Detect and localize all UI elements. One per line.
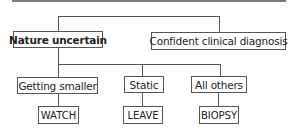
connector-to-confident-diagnosis bbox=[219, 16, 220, 32]
node-biopsy: BIOPSY bbox=[199, 106, 239, 124]
node-static: Static bbox=[124, 76, 164, 93]
connector-to-getting-smaller bbox=[58, 64, 59, 77]
connector-to-nature-uncertain bbox=[58, 16, 59, 31]
connector-to-leave bbox=[142, 93, 143, 106]
node-watch: WATCH bbox=[38, 106, 79, 124]
connector-to-biopsy bbox=[218, 93, 219, 106]
connector-to-watch bbox=[58, 94, 59, 106]
node-nature-uncertain: Nature uncertain bbox=[13, 31, 103, 48]
node-confident-clinical-diagnosis: Confident clinical diagnosis bbox=[151, 32, 286, 50]
top-rule bbox=[12, 0, 286, 2]
node-leave: LEAVE bbox=[123, 106, 163, 124]
connector-to-all-others bbox=[220, 64, 221, 76]
node-all-others: All others bbox=[191, 76, 247, 93]
connector-mid-horizontal bbox=[58, 64, 221, 65]
node-getting-smaller: Getting smaller bbox=[17, 77, 98, 94]
connector-nature-down bbox=[58, 48, 59, 64]
connector-to-static bbox=[142, 64, 143, 76]
connector-top-horizontal bbox=[58, 16, 220, 17]
